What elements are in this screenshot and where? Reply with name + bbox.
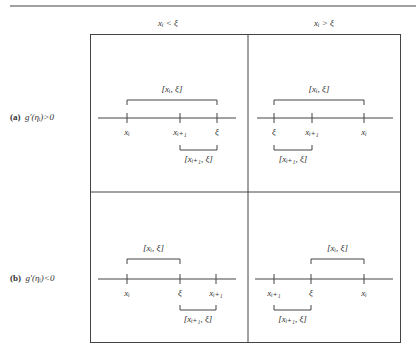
row-tag-a: (a) — [10, 112, 21, 122]
bottom-bracket-label: [xᵢ₊₁, ξ] — [184, 154, 213, 164]
column-header-right: xᵢ > ξ — [314, 18, 334, 28]
tick-label: xᵢ₊₁ — [173, 127, 186, 137]
diagram-canvas — [0, 0, 416, 357]
tick-label: xᵢ — [361, 288, 366, 298]
tick-label: ξ — [215, 127, 219, 137]
tick-label: xᵢ — [361, 127, 366, 137]
bottom-bracket-label: [xᵢ₊₁, ξ] — [184, 314, 213, 324]
row-tag-b: (b) — [10, 273, 21, 283]
tick-label: xᵢ₊₁ — [305, 127, 318, 137]
top-bracket-label: [xᵢ, ξ] — [143, 243, 164, 253]
bottom-bracket-label: [xᵢ₊₁, ξ] — [279, 154, 308, 164]
bottom-bracket-label: [xᵢ₊₁, ξ] — [278, 314, 307, 324]
row-label-b: (b) g′(ηᵢ)<0 — [10, 273, 54, 283]
tick-label: ξ — [272, 127, 276, 137]
tick-label: xᵢ₊₁ — [209, 288, 222, 298]
tick-label: ξ — [309, 288, 313, 298]
row-condition-b: g′(ηᵢ)<0 — [26, 273, 55, 283]
top-bracket-label: [xᵢ, ξ] — [309, 84, 330, 94]
tick-label: xᵢ — [124, 127, 129, 137]
grid-frame — [91, 35, 401, 343]
tick-label: ξ — [178, 288, 182, 298]
row-label-a: (a) g′(ηᵢ)>0 — [10, 112, 54, 122]
top-bracket-label: [xᵢ, ξ] — [162, 84, 183, 94]
row-condition-a: g′(ηᵢ)>0 — [25, 112, 54, 122]
top-bracket-label: [xᵢ, ξ] — [327, 243, 348, 253]
tick-label: xᵢ — [124, 288, 129, 298]
tick-label: xᵢ₊₁ — [267, 288, 280, 298]
column-header-left: xᵢ < ξ — [158, 18, 178, 28]
